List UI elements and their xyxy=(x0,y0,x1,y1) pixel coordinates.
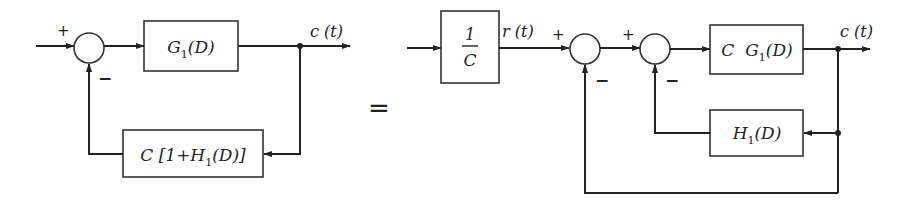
right-output-label: c (t) xyxy=(840,22,873,41)
left-diagram: + − G1(D) c (t) C [1+H1(D)] xyxy=(36,21,350,177)
equals-sign: = xyxy=(368,93,390,123)
inner-feedback-wire-out xyxy=(655,65,710,133)
left-sum-minus-sign: − xyxy=(98,68,112,88)
intermediate-signal-label: r (t) xyxy=(502,22,534,41)
outer-summing-junction xyxy=(570,34,600,64)
prefilter-block xyxy=(441,11,499,83)
left-output-label: c (t) xyxy=(310,22,343,41)
outer-sum-minus-sign: − xyxy=(595,70,609,90)
prefilter-denominator: C xyxy=(463,50,476,70)
inner-sum-minus-sign: − xyxy=(665,70,679,90)
prefilter-numerator: 1 xyxy=(465,25,475,44)
left-feedback-wire-in xyxy=(264,46,300,154)
inner-summing-junction xyxy=(640,34,670,64)
inner-sum-plus-sign: + xyxy=(622,26,635,44)
left-sum-plus-sign: + xyxy=(57,22,70,40)
outer-sum-plus-sign: + xyxy=(552,26,565,44)
block-diagram: + − G1(D) c (t) C [1+H1(D)] = 1 C r (t) … xyxy=(0,0,903,201)
right-diagram: 1 C r (t) + − + − C G1(D) c (t) H1(D) xyxy=(407,11,873,193)
left-summing-junction xyxy=(74,33,104,63)
